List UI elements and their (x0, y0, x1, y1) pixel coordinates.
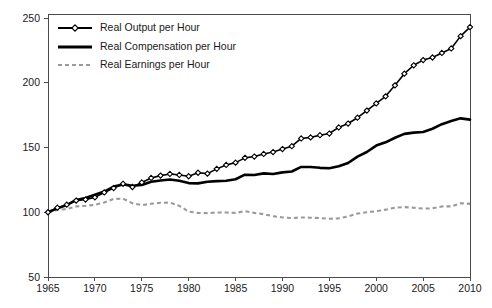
legend-label-0: Real Output per Hour (100, 21, 200, 33)
y-tick-label: 250 (22, 12, 40, 24)
x-tick-label: 1980 (177, 282, 201, 294)
y-tick-label: 50 (28, 271, 40, 283)
x-axis: 1965197019751980198519901995200020052010 (36, 277, 482, 294)
plot-frame (48, 14, 470, 277)
y-tick-label: 200 (22, 76, 40, 88)
chart-legend: Real Output per HourReal Compensation pe… (58, 21, 236, 70)
legend-marker-diamond (72, 25, 78, 31)
y-tick-label: 100 (22, 206, 40, 218)
data-point-marker (280, 146, 285, 151)
legend-label-1: Real Compensation per Hour (100, 40, 236, 52)
x-tick-label: 1990 (271, 282, 295, 294)
data-point-marker (158, 173, 163, 178)
x-tick-label: 2005 (411, 282, 435, 294)
data-point-marker (252, 154, 257, 159)
data-point-marker (308, 135, 313, 140)
data-point-marker (261, 151, 266, 156)
data-point-marker (195, 170, 200, 175)
data-point-marker (149, 175, 154, 180)
data-point-marker (317, 133, 322, 138)
y-axis: 50100150200250 (22, 12, 48, 283)
data-series-group (45, 24, 472, 218)
data-point-marker (430, 55, 435, 60)
legend-label-2: Real Earnings per Hour (100, 58, 210, 70)
data-point-marker (270, 149, 275, 154)
data-point-marker (224, 162, 229, 167)
x-tick-label: 1975 (130, 282, 154, 294)
series-real-earnings-per-hour (48, 199, 470, 219)
data-point-marker (167, 171, 172, 176)
x-tick-label: 1995 (318, 282, 342, 294)
data-point-marker (186, 174, 191, 179)
data-point-marker (177, 172, 182, 177)
x-tick-label: 1965 (36, 282, 60, 294)
plot-border (48, 14, 470, 277)
x-tick-label: 2000 (365, 282, 389, 294)
x-tick-label: 1970 (83, 282, 107, 294)
x-tick-label: 2010 (458, 282, 482, 294)
x-tick-label: 1985 (224, 282, 248, 294)
series-real-compensation-per-hour (48, 118, 470, 212)
chart-container: 50100150200250 1965197019751980198519901… (0, 0, 492, 308)
data-point-marker (439, 50, 444, 55)
line-chart: 50100150200250 1965197019751980198519901… (0, 0, 492, 308)
y-tick-label: 150 (22, 141, 40, 153)
series-real-output-per-hour (48, 27, 470, 212)
